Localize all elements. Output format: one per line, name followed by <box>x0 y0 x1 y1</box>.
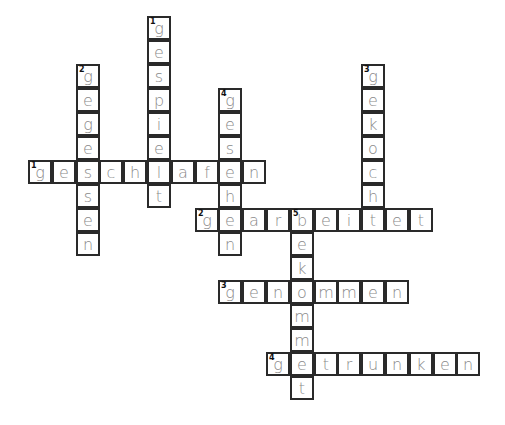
cell-letter: c <box>101 163 121 183</box>
crossword-cell[interactable]: i <box>147 112 171 136</box>
crossword-cell[interactable]: 3g <box>218 280 242 304</box>
crossword-cell[interactable]: e <box>433 352 457 376</box>
cell-letter: m <box>316 283 336 303</box>
crossword-cell[interactable]: k <box>409 352 433 376</box>
crossword-cell[interactable]: n <box>385 352 409 376</box>
crossword-cell[interactable]: m <box>337 280 361 304</box>
crossword-cell[interactable]: h <box>123 160 147 184</box>
cell-letter: n <box>387 283 407 303</box>
crossword-cell[interactable]: 2g <box>76 64 100 88</box>
cell-letter: i <box>149 115 169 135</box>
crossword-cell[interactable]: i <box>337 208 361 232</box>
cell-letter: g <box>220 283 240 303</box>
crossword-cell[interactable]: 1g <box>147 16 171 40</box>
crossword-cell[interactable]: s <box>76 160 100 184</box>
crossword-cell[interactable]: n <box>76 232 100 256</box>
crossword-cell[interactable]: a <box>242 208 266 232</box>
crossword-cell[interactable]: 1g <box>28 160 52 184</box>
crossword-cell[interactable]: n <box>456 352 480 376</box>
crossword-cell[interactable]: u <box>361 352 385 376</box>
cell-letter: n <box>244 163 264 183</box>
crossword-cell[interactable]: r <box>337 352 361 376</box>
crossword-cell[interactable]: m <box>314 280 338 304</box>
crossword-cell[interactable]: t <box>409 208 433 232</box>
crossword-cell[interactable]: 4g <box>218 88 242 112</box>
crossword-cell[interactable]: 2g <box>195 208 219 232</box>
crossword-cell[interactable]: o <box>290 280 314 304</box>
crossword-cell[interactable]: n <box>242 160 266 184</box>
crossword-cell[interactable]: e <box>218 112 242 136</box>
crossword-cell[interactable]: 3g <box>361 64 385 88</box>
crossword-cell[interactable]: e <box>147 136 171 160</box>
cell-letter: t <box>411 211 431 231</box>
crossword-cell[interactable]: e <box>361 280 385 304</box>
cell-letter: g <box>268 355 288 375</box>
crossword-cell[interactable]: g <box>76 112 100 136</box>
cell-letter: p <box>149 91 169 111</box>
cell-letter: a <box>173 163 193 183</box>
crossword-cell[interactable]: a <box>171 160 195 184</box>
crossword-cell[interactable]: e <box>76 208 100 232</box>
cell-letter: n <box>220 235 240 255</box>
crossword-cell[interactable]: n <box>218 232 242 256</box>
crossword-cell[interactable]: e <box>290 352 314 376</box>
crossword-cell[interactable]: k <box>290 256 314 280</box>
crossword-cell[interactable]: t <box>361 208 385 232</box>
cell-letter: e <box>316 211 336 231</box>
cell-letter: e <box>149 43 169 63</box>
cell-letter: e <box>363 283 383 303</box>
cell-letter: s <box>78 187 98 207</box>
cell-letter: k <box>292 259 312 279</box>
crossword-cell[interactable]: e <box>314 208 338 232</box>
cell-letter: o <box>363 139 383 159</box>
cell-letter: e <box>292 235 312 255</box>
crossword-cell[interactable]: c <box>99 160 123 184</box>
crossword-cell[interactable]: e <box>76 88 100 112</box>
cell-letter: g <box>30 163 50 183</box>
cell-letter: e <box>220 211 240 231</box>
cell-letter: h <box>125 163 145 183</box>
crossword-cell[interactable]: t <box>290 376 314 400</box>
crossword-cell[interactable]: n <box>266 280 290 304</box>
crossword-cell[interactable]: e <box>218 160 242 184</box>
crossword-cell[interactable]: f <box>195 160 219 184</box>
cell-letter: c <box>363 163 383 183</box>
cell-letter: m <box>292 307 312 327</box>
crossword-cell[interactable]: h <box>361 184 385 208</box>
cell-letter: t <box>292 379 312 399</box>
crossword-cell[interactable]: e <box>218 208 242 232</box>
crossword-cell[interactable]: s <box>147 64 171 88</box>
crossword-cell[interactable]: m <box>290 304 314 328</box>
cell-letter: e <box>363 91 383 111</box>
crossword-cell[interactable]: e <box>76 136 100 160</box>
crossword-cell[interactable]: s <box>76 184 100 208</box>
crossword-cell[interactable]: l <box>147 160 171 184</box>
cell-letter: t <box>316 355 336 375</box>
crossword-cell[interactable]: t <box>147 184 171 208</box>
crossword-cell[interactable]: n <box>385 280 409 304</box>
cell-letter: e <box>244 283 264 303</box>
crossword-cell[interactable]: p <box>147 88 171 112</box>
cell-letter: g <box>149 19 169 39</box>
crossword-cell[interactable]: r <box>266 208 290 232</box>
crossword-cell[interactable]: e <box>290 232 314 256</box>
cell-letter: o <box>292 283 312 303</box>
crossword-cell[interactable]: e <box>147 40 171 64</box>
crossword-cell[interactable]: e <box>52 160 76 184</box>
cell-letter: n <box>78 235 98 255</box>
crossword-cell[interactable]: 5b <box>290 208 314 232</box>
crossword-cell[interactable]: h <box>218 184 242 208</box>
cell-letter: e <box>220 115 240 135</box>
crossword-cell[interactable]: o <box>361 136 385 160</box>
crossword-cell[interactable]: e <box>361 88 385 112</box>
crossword-cell[interactable]: s <box>218 136 242 160</box>
crossword-cell[interactable]: e <box>242 280 266 304</box>
cell-letter: k <box>411 355 431 375</box>
crossword-cell[interactable]: m <box>290 328 314 352</box>
crossword-cell[interactable]: t <box>314 352 338 376</box>
crossword-cell[interactable]: e <box>385 208 409 232</box>
crossword-cell[interactable]: k <box>361 112 385 136</box>
cell-letter: g <box>363 67 383 87</box>
crossword-cell[interactable]: 4g <box>266 352 290 376</box>
crossword-cell[interactable]: c <box>361 160 385 184</box>
